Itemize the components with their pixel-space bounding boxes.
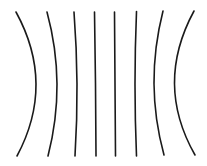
field-line-8 — [174, 11, 195, 155]
field-line-4 — [95, 12, 97, 156]
field-lines-diagram — [0, 0, 207, 166]
field-line-1 — [16, 12, 36, 156]
field-line-6 — [135, 12, 137, 157]
field-lines-canvas — [0, 0, 207, 166]
field-line-7 — [154, 11, 164, 155]
field-line-3 — [74, 12, 77, 156]
field-line-2 — [47, 12, 57, 156]
field-line-5 — [115, 12, 116, 156]
